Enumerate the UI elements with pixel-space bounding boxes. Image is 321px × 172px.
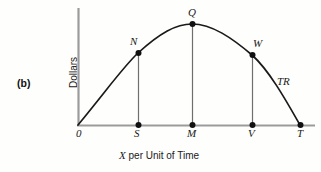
point-marker-N [136, 50, 142, 56]
point-label-Q: Q [188, 7, 196, 18]
tr-curve [78, 24, 300, 125]
x-axis-label-text: per Unit of Time [126, 150, 199, 161]
point-marker-Q [190, 21, 196, 27]
point-label-W: W [253, 38, 262, 49]
x-axis-label: X per Unit of Time [119, 150, 199, 161]
curve-label-tr: TR [277, 76, 290, 87]
axis-label-V: V [248, 128, 255, 139]
plot-canvas [0, 0, 321, 172]
point-label-N: N [130, 36, 137, 47]
axis-label-T: T [297, 128, 303, 139]
origin-label: 0 [76, 128, 82, 139]
x-axis-label-variable: X [119, 149, 126, 161]
axis-label-S: S [134, 128, 140, 139]
figure-panel-b: (b) Dollars 0 N Q W S M V T TR X per Uni [0, 0, 321, 172]
point-marker-W [250, 52, 256, 58]
axis-label-M: M [187, 128, 196, 139]
